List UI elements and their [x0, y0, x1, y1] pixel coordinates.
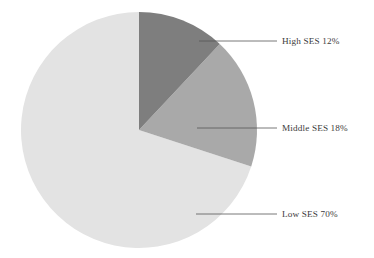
- pie-chart-figure: High SES 12% Middle SES 18% Low SES 70%: [0, 0, 374, 258]
- pie-label-high-ses: High SES 12%: [282, 37, 339, 46]
- pie-label-low-ses: Low SES 70%: [282, 210, 338, 219]
- pie-label-middle-ses: Middle SES 18%: [282, 124, 348, 133]
